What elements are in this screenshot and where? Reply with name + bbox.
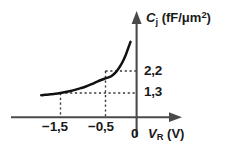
y-axis-title: Cj (fF/μm2) [146,11,211,27]
x-axis-unit: (V) [167,126,184,141]
capacitance-curve [41,42,130,95]
y-axis-arrowhead [132,11,142,24]
x-axis-title: VR (V) [148,127,184,143]
y-axis-unit-m: m [190,10,202,25]
x-axis-arrowhead [169,112,182,122]
x-axis-symbol: V [148,126,157,141]
y-axis-unit-prefix: (fF/ [162,10,182,25]
capacitance-voltage-chart: Cj (fF/μm2) VR (V) 2,2 1,3 −1,5 −0,5 0 [0,0,226,157]
y-tick-label-2-2: 2,2 [144,64,162,78]
origin-label: 0 [131,127,139,141]
x-tick-label-minus-1-5: −1,5 [42,120,68,134]
y-tick-label-1-3: 1,3 [144,85,162,99]
y-axis-symbol: C [146,10,155,25]
x-tick-label-minus-0-5: −0,5 [88,120,114,134]
y-axis-unit-suffix: ) [207,10,211,25]
mu-symbol: μ [182,10,190,25]
